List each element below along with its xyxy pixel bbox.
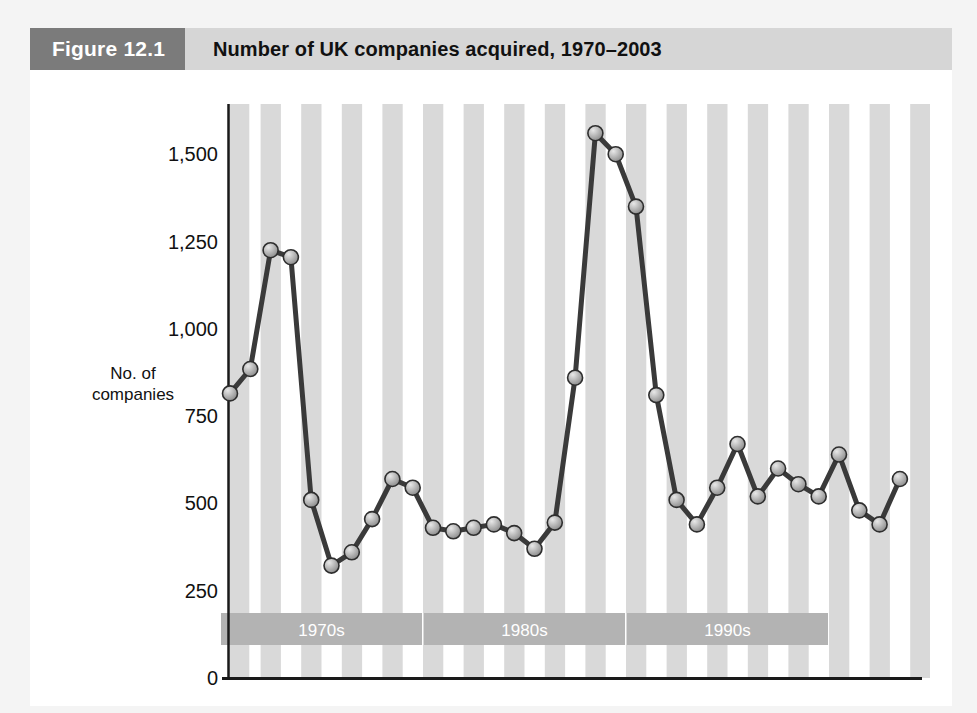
data-point-1976 [344,545,359,560]
data-point-1991 [649,388,664,403]
stripe-band [342,104,362,678]
background-stripes [229,104,930,678]
stripe-band [748,104,768,678]
data-point-1999 [811,489,826,504]
data-point-1998 [791,477,806,492]
data-point-1992 [669,492,684,507]
data-point-1987 [568,370,583,385]
y-axis-label: No. of companies [58,363,208,405]
data-point-1983 [486,517,501,532]
data-point-1988 [588,126,603,141]
data-point-1994 [710,480,725,495]
y-tick-label: 500 [185,492,218,514]
stripe-band [423,104,443,678]
y-tick-label: 750 [185,405,218,427]
line-chart: 1970s1980s1990s02505007501,0001,2501,500 [0,0,977,713]
data-point-1974 [304,492,319,507]
data-point-1972 [263,243,278,258]
y-tick-label: 0 [207,667,218,689]
data-point-1997 [771,461,786,476]
data-point-1982 [466,520,481,535]
data-point-1989 [608,147,623,162]
data-point-1980 [426,520,441,535]
data-point-1975 [324,558,339,573]
stripe-band [464,104,484,678]
data-point-1981 [446,524,461,539]
y-tick-label: 1,250 [168,231,218,253]
stripe-band [504,104,524,678]
data-point-1985 [527,541,542,556]
y-axis-label-line2: companies [58,384,208,405]
stripe-band [788,104,808,678]
data-point-1986 [547,515,562,530]
decade-bands: 1970s1980s1990s [221,613,828,645]
data-point-1979 [405,480,420,495]
data-point-2001 [852,503,867,518]
stripe-band [707,104,727,678]
figure-page: Figure 12.1 Number of UK companies acqui… [0,0,977,713]
data-point-1984 [507,526,522,541]
data-point-2002 [872,517,887,532]
data-point-2003 [892,472,907,487]
stripe-band [382,104,402,678]
stripe-band [870,104,890,678]
data-point-1971 [243,362,258,377]
data-point-1978 [385,472,400,487]
stripe-band [829,104,849,678]
decade-band-label-1990s: 1990s [704,621,750,640]
data-point-1996 [750,489,765,504]
stripe-band [261,104,281,678]
stripe-band [667,104,687,678]
data-point-1990 [629,199,644,214]
data-point-1995 [730,437,745,452]
y-axis-label-line1: No. of [58,363,208,384]
data-point-1973 [283,250,298,265]
stripe-band [910,104,930,678]
data-point-1977 [365,512,380,527]
chart-plot-area: 1970s1980s1990s02505007501,0001,2501,500… [0,0,977,713]
y-axis-ticks: 02505007501,0001,2501,500 [168,143,218,689]
decade-band-label-1970s: 1970s [298,621,344,640]
decade-band-label-1980s: 1980s [501,621,547,640]
y-tick-label: 250 [185,580,218,602]
data-point-1993 [689,517,704,532]
y-tick-label: 1,000 [168,318,218,340]
data-point-2000 [832,447,847,462]
stripe-band [545,104,565,678]
y-tick-label: 1,500 [168,143,218,165]
data-point-1970 [223,386,238,401]
